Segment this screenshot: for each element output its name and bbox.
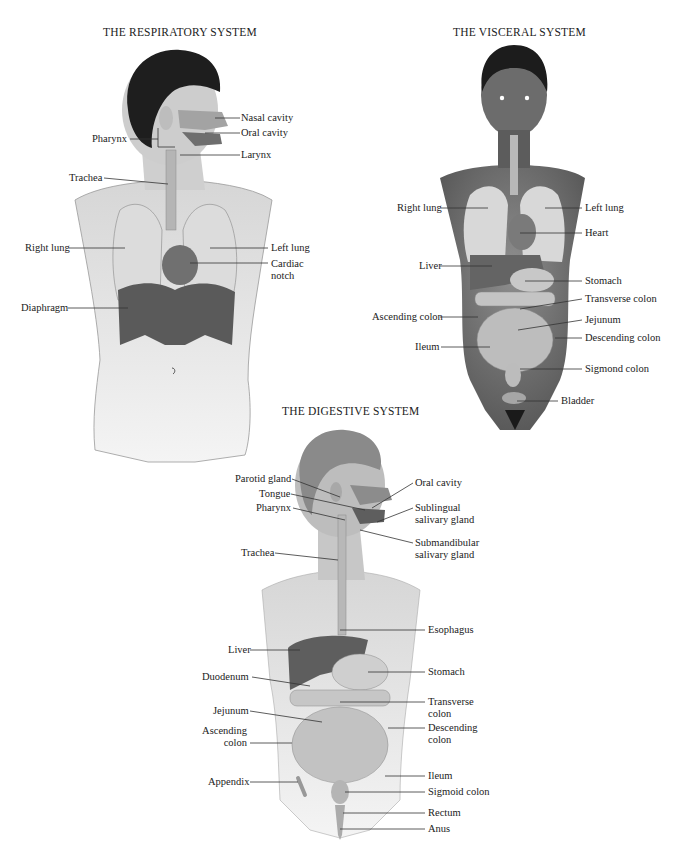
label-sigmoid-colon: Sigmoid colon xyxy=(428,786,490,798)
respiratory-system-title: THE RESPIRATORY SYSTEM xyxy=(103,26,257,38)
label-liver: Liver xyxy=(419,260,442,272)
label-jejunum: Jejunum xyxy=(585,314,621,326)
label-rectum: Rectum xyxy=(428,807,461,819)
label-ascending-colon-1: Ascending xyxy=(200,725,247,737)
label-left-lung: Left lung xyxy=(585,202,624,214)
label-submandibular-2: salivary gland xyxy=(415,549,474,561)
label-tongue: Tongue xyxy=(259,488,290,500)
label-parotid-gland: Parotid gland xyxy=(235,473,291,485)
label-ascending-colon: Ascending colon xyxy=(372,311,443,323)
label-ascending-colon-2: colon xyxy=(200,737,247,749)
label-duodenum: Duodenum xyxy=(202,671,249,683)
label-heart: Heart xyxy=(585,227,608,239)
label-diaphragm: Diaphragm xyxy=(21,302,68,314)
label-left-lung: Left lung xyxy=(271,242,310,254)
label-ileum: Ileum xyxy=(415,341,440,353)
label-transverse-colon-1: Transverse xyxy=(428,696,474,708)
visceral-system-title: THE VISCERAL SYSTEM xyxy=(453,26,586,38)
label-stomach: Stomach xyxy=(585,275,622,287)
label-trachea: Trachea xyxy=(241,547,274,559)
label-larynx: Larynx xyxy=(241,149,271,161)
label-sublingual-1: Sublingual xyxy=(415,502,461,514)
label-oral-cavity: Oral cavity xyxy=(241,127,288,139)
label-appendix: Appendix xyxy=(208,776,249,788)
label-submandibular-1: Submandibular xyxy=(415,537,479,549)
label-transverse-colon: Transverse colon xyxy=(585,293,657,305)
label-oral-cavity: Oral cavity xyxy=(415,477,462,489)
label-stomach: Stomach xyxy=(428,666,465,678)
label-trachea: Trachea xyxy=(69,172,102,184)
label-descending-colon: Descending colon xyxy=(585,332,661,344)
anatomy-illustrations xyxy=(0,0,678,858)
label-ileum: Ileum xyxy=(428,770,453,782)
label-right-lung: Right lung xyxy=(25,242,70,254)
label-esophagus: Esophagus xyxy=(428,624,474,636)
label-sigmond-colon: Sigmond colon xyxy=(585,363,649,375)
label-bladder: Bladder xyxy=(561,395,594,407)
label-liver: Liver xyxy=(228,644,251,656)
label-right-lung: Right lung xyxy=(397,202,442,214)
label-jejunum: Jejunum xyxy=(213,705,249,717)
digestive-system-title: THE DIGESTIVE SYSTEM xyxy=(282,405,420,417)
label-descending-colon-2: colon xyxy=(428,734,451,746)
label-cardiac-notch-2: notch xyxy=(271,270,294,282)
label-sublingual-2: salivary gland xyxy=(415,514,474,526)
label-transverse-colon-2: colon xyxy=(428,708,451,720)
label-pharynx: Pharynx xyxy=(256,502,291,514)
label-nasal-cavity: Nasal cavity xyxy=(241,112,293,124)
label-pharynx: Pharynx xyxy=(92,133,127,145)
label-anus: Anus xyxy=(428,823,450,835)
label-descending-colon-1: Descending xyxy=(428,722,478,734)
label-cardiac-notch-1: Cardiac xyxy=(271,258,304,270)
visceral-figure xyxy=(440,45,585,430)
